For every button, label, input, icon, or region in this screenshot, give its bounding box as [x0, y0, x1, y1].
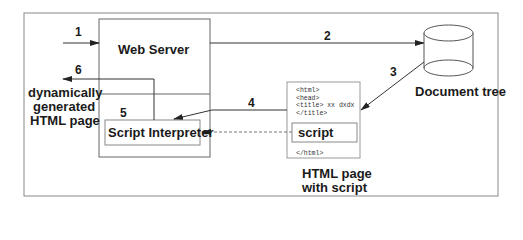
step-6-label: 6 [75, 63, 82, 77]
step-3-label: 3 [390, 65, 397, 79]
step-1-label: 1 [75, 25, 82, 39]
document-tree-cylinder-icon [424, 25, 473, 76]
html-page-label-line2: with script [302, 180, 367, 195]
arrow-4 [174, 110, 287, 119]
step-2-label: 2 [324, 29, 331, 43]
output-label-line2: generated [33, 99, 95, 114]
html-code-line: <title> xx dxdx [296, 102, 355, 110]
web-server-label: Web Server [118, 42, 189, 57]
script-block-label: script [298, 125, 333, 140]
html-code-line: </html> [296, 150, 323, 158]
document-tree-label: Document tree [415, 84, 506, 99]
html-page-label-line1: HTML page [302, 166, 372, 181]
step-4-label: 4 [248, 96, 255, 110]
html-code-line: </title> [296, 110, 327, 118]
html-code-line: <head> [296, 95, 319, 103]
html-code-line: <html> [296, 87, 319, 95]
output-label-line1: dynamically [28, 85, 102, 100]
step-5-label: 5 [120, 106, 127, 120]
script-interpreter-label: Script Interpreter [108, 125, 213, 140]
output-label-line3: HTML page [30, 113, 100, 128]
